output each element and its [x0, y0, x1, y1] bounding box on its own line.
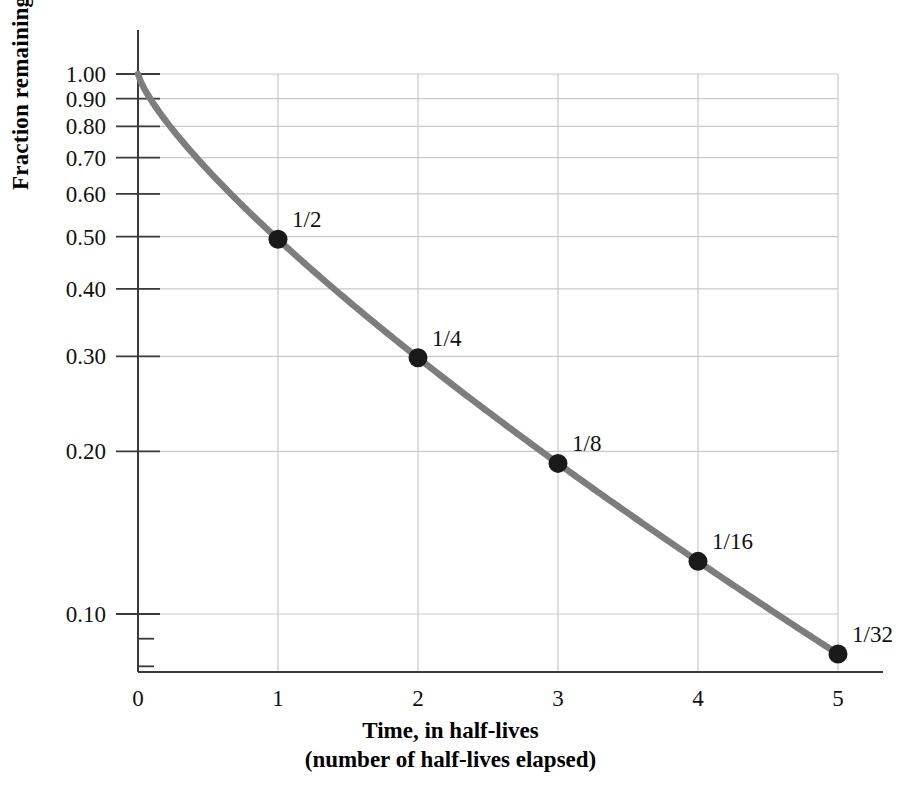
- data-point-label: 1/4: [432, 326, 462, 351]
- y-tick-label: 0.10: [66, 602, 106, 627]
- gridlines-vertical: [278, 74, 838, 672]
- x-axis-title-main: Time, in half-lives: [362, 718, 539, 743]
- y-tick-label: 0.60: [66, 182, 106, 207]
- y-tick-label: 0.70: [66, 146, 106, 171]
- decay-curve-line: [138, 74, 838, 654]
- y-tick-label: 0.50: [66, 225, 106, 250]
- data-point-labels: 1/21/41/81/161/32: [292, 207, 893, 647]
- x-axis-title-sub: (number of half-lives elapsed): [0, 745, 901, 774]
- data-point-marker: [689, 552, 708, 571]
- chart-figure: 0.100.200.300.400.500.600.700.800.901.00…: [0, 0, 901, 804]
- y-tick-label: 0.20: [66, 439, 106, 464]
- x-tick-label: 0: [132, 686, 144, 711]
- data-point-marker: [269, 230, 288, 249]
- x-axis-title: Time, in half-lives (number of half-live…: [0, 716, 901, 774]
- y-tick-label: 0.30: [66, 344, 106, 369]
- y-tick-label: 1.00: [66, 62, 106, 87]
- y-axis-title: Fraction remaining: [8, 0, 34, 190]
- x-tick-label: 1: [272, 686, 284, 711]
- x-tick-label: 4: [692, 686, 704, 711]
- y-tick-label: 0.80: [66, 114, 106, 139]
- x-tick-label: 5: [832, 686, 844, 711]
- y-tick-label: 0.90: [66, 87, 106, 112]
- data-point-label: 1/32: [852, 622, 893, 647]
- data-point-marker: [409, 348, 428, 367]
- x-tick-label: 2: [412, 686, 424, 711]
- y-tick-label: 0.40: [66, 277, 106, 302]
- data-point-marker: [829, 645, 848, 664]
- data-point-marker: [549, 454, 568, 473]
- decay-curve-chart: 0.100.200.300.400.500.600.700.800.901.00…: [0, 0, 901, 804]
- x-axis-ticklabels: 012345: [132, 686, 844, 711]
- data-point-label: 1/8: [572, 431, 601, 456]
- data-point-label: 1/2: [292, 207, 321, 232]
- x-tick-label: 3: [552, 686, 564, 711]
- y-axis-ticklabels: 0.100.200.300.400.500.600.700.800.901.00: [66, 62, 106, 627]
- data-point-label: 1/16: [712, 529, 753, 554]
